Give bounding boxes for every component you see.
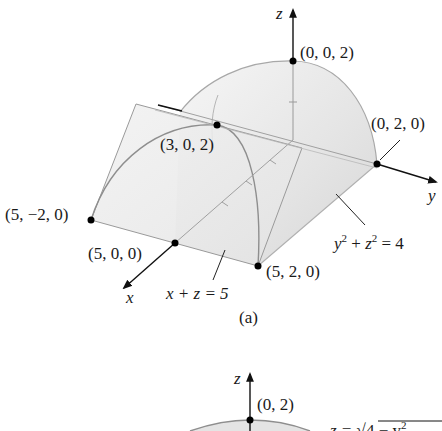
point-3-0-2 xyxy=(214,122,221,129)
figure-a-caption: (a) xyxy=(239,308,258,327)
leader-020 xyxy=(380,140,400,160)
point-0-2 xyxy=(247,417,254,424)
label-plane-equation: x + z = 5 xyxy=(165,284,229,303)
label-5-m2-0: (5, −2, 0) xyxy=(5,205,68,224)
label-0-2: (0, 2) xyxy=(257,395,294,414)
z-axis-label-b: z xyxy=(233,369,241,388)
figure-b: z (0, 2) z = √4 − y2 xyxy=(190,369,442,431)
label-0-2-0: (0, 2, 0) xyxy=(371,114,425,133)
label-5-2-0: (5, 2, 0) xyxy=(266,262,320,281)
point-0-2-0 xyxy=(374,161,381,168)
y-axis-neg-stub xyxy=(158,105,182,111)
y-axis-label: y xyxy=(426,186,436,205)
label-5-0-0: (5, 0, 0) xyxy=(88,244,142,263)
figure-a: z y x (0, 0, 2) (3, 0, 2) (0, 2, 0) (5, … xyxy=(5,4,436,327)
point-5-2-0 xyxy=(255,263,262,270)
label-0-0-2: (0, 0, 2) xyxy=(300,43,354,62)
z-axis-label: z xyxy=(275,4,283,23)
point-5-m2-0 xyxy=(88,217,95,224)
x-axis-label: x xyxy=(125,288,134,307)
point-0-0-2 xyxy=(290,58,297,65)
point-5-0-0 xyxy=(172,240,179,247)
leader-cylinder xyxy=(336,194,365,225)
label-cylinder-equation: y2 + z2 = 4 xyxy=(332,232,404,253)
y-axis xyxy=(377,164,436,182)
diagram-canvas: z y x (0, 0, 2) (3, 0, 2) (0, 2, 0) (5, … xyxy=(0,0,442,431)
label-3-0-2: (3, 0, 2) xyxy=(160,135,214,154)
